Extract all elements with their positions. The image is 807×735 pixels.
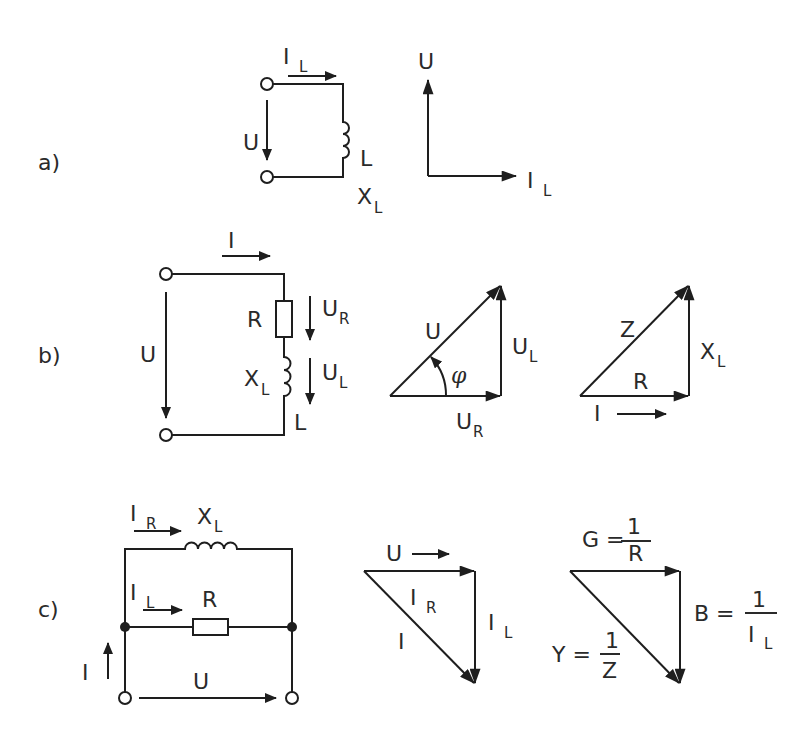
wire-bottom (172, 396, 284, 435)
g-lhs: G = (582, 527, 624, 552)
reactance-sub: L (374, 199, 383, 217)
terminal-top (261, 78, 273, 90)
current-triangle: U I R I L I (364, 541, 513, 683)
il-sub: L (504, 624, 513, 642)
b-den-sub: L (764, 635, 773, 653)
terminal-left (119, 692, 131, 704)
ur-label: U (456, 409, 472, 434)
section-a-phasor: U I L (418, 49, 552, 200)
resistor-icon (276, 301, 292, 337)
xl-sub: L (214, 518, 223, 536)
xl-label: X (700, 339, 715, 364)
b-den: I (748, 622, 755, 647)
ir-label: I (130, 501, 137, 526)
resistor-icon (193, 619, 228, 635)
r-label: R (633, 369, 648, 394)
reactance-sub: L (261, 381, 270, 399)
admittance-triangle: G = 1 R B = 1 I L Y = 1 Z (551, 514, 777, 683)
section-b-label: b) (38, 343, 61, 368)
phasor-il-sub: L (543, 182, 552, 200)
u-phasor (390, 286, 500, 396)
u-label: U (425, 319, 441, 344)
resistor-label: R (202, 587, 217, 612)
ur-label: U (322, 296, 338, 321)
section-a-label: a) (38, 150, 60, 175)
inductor-coil-icon (284, 357, 291, 396)
section-b-circuit: I R X L L U R U L U (140, 228, 349, 441)
voltage-label: U (193, 669, 209, 694)
g-num: 1 (627, 514, 641, 539)
y-den: Z (602, 658, 617, 683)
z-label: Z (620, 317, 635, 342)
ir-sub: R (426, 599, 436, 617)
reactance-label: X (357, 184, 372, 209)
section-a: a) I L L X L U U I L (38, 44, 552, 217)
b-num: 1 (752, 587, 766, 612)
ul-label: U (512, 334, 528, 359)
terminal-bottom (160, 429, 172, 441)
y-lhs: Y = (551, 642, 591, 667)
xl-sub: L (717, 353, 726, 371)
voltage-label: U (243, 130, 259, 155)
terminal-right (286, 692, 298, 704)
section-c-label: c) (38, 597, 59, 622)
inductor-label: L (294, 410, 307, 435)
section-a-circuit: I L L X L U (243, 44, 383, 217)
impedance-triangle: Z R X L I (580, 286, 726, 426)
terminal-bottom (261, 171, 273, 183)
wire-top-right (237, 549, 292, 627)
i-ref-label: I (594, 401, 601, 426)
y-num: 1 (605, 628, 619, 653)
i-label: I (398, 629, 405, 654)
phasor-il-label: I (527, 168, 534, 193)
resistor-label: R (247, 307, 262, 332)
phi-label: φ (451, 363, 467, 388)
rl-circuit-figure: a) I L L X L U U I L (0, 0, 807, 735)
inductor-label: L (360, 146, 373, 171)
il-label: I (130, 580, 137, 605)
i-phasor (364, 571, 474, 683)
inductor-coil-icon (185, 543, 237, 550)
inductor-coil-icon (343, 122, 349, 158)
ur-sub: R (473, 423, 483, 441)
wire-bottom (273, 158, 343, 177)
ul-sub: L (529, 348, 538, 366)
ul-label: U (322, 360, 338, 385)
current-label: I (82, 660, 89, 685)
voltage-triangle: U φ U L U R (390, 286, 538, 441)
reactance-label: X (244, 366, 259, 391)
il-label: I (488, 610, 495, 635)
terminal-top (160, 268, 172, 280)
ur-sub: R (339, 310, 349, 328)
current-sub: L (299, 58, 308, 76)
wire-top (172, 274, 284, 301)
g-den: R (628, 541, 643, 566)
ul-sub: L (339, 374, 348, 392)
voltage-label: U (140, 342, 156, 367)
xl-label: X (197, 504, 212, 529)
phase-angle-arc (431, 357, 446, 396)
section-c-circuit: I R X L I L R I (82, 501, 298, 704)
current-label: I (283, 44, 290, 69)
ir-label: I (410, 585, 417, 610)
u-ref-label: U (386, 541, 402, 566)
section-b: b) I R X L L U R U L U (38, 228, 726, 441)
wire-top (273, 84, 343, 122)
current-label: I (228, 228, 235, 253)
phasor-u-label: U (418, 49, 434, 74)
section-c: c) I R X L I L R (38, 501, 777, 704)
b-lhs: B = (694, 601, 735, 626)
